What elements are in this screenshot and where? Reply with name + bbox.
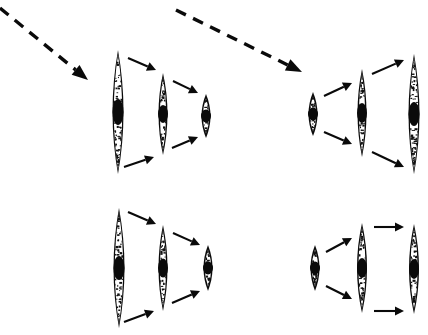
stipple-dot	[118, 77, 119, 78]
stipple-dot	[411, 282, 413, 283]
stipple-dot	[359, 248, 362, 250]
stipple-dot	[118, 309, 120, 311]
stipple-dot	[117, 234, 119, 236]
stipple-dot	[414, 80, 416, 82]
stipple-dot	[117, 126, 119, 128]
stipple-dot	[363, 247, 365, 249]
stipple-dot	[413, 89, 415, 91]
stipple-dot	[118, 88, 120, 90]
stipple-dot	[413, 84, 415, 85]
stipple-dot	[118, 149, 121, 150]
stipple-dot	[117, 285, 118, 287]
stipple-dot	[363, 290, 364, 292]
stipple-dot	[116, 80, 117, 81]
stipple-dot	[165, 257, 167, 258]
stipple-dot	[412, 74, 415, 75]
stipple-dot	[361, 90, 364, 92]
stipple-dot	[413, 255, 415, 256]
stipple-dot	[412, 94, 414, 95]
lens-nucleus	[310, 262, 320, 275]
stipple-dot	[360, 238, 361, 240]
stipple-dot	[361, 123, 363, 124]
lens-nucleus	[357, 258, 367, 278]
stipple-dot	[411, 258, 413, 259]
stipple-dot	[414, 128, 417, 130]
stipple-dot	[115, 138, 117, 140]
stipple-dot	[120, 127, 121, 129]
stipple-dot	[412, 150, 413, 152]
stipple-dot	[162, 298, 164, 299]
stipple-dot	[118, 86, 119, 88]
stipple-dot	[208, 253, 209, 255]
lens-nucleus	[158, 259, 168, 278]
stipple-dot	[119, 290, 120, 291]
stipple-dot	[413, 87, 415, 89]
stipple-dot	[416, 89, 417, 91]
stipple-dot	[164, 100, 166, 102]
stipple-dot	[160, 286, 163, 287]
stipple-dot	[361, 243, 362, 245]
stipple-dot	[410, 98, 412, 99]
stipple-dot	[161, 134, 162, 135]
stipple-dot	[115, 246, 118, 248]
stipple-dot	[362, 237, 364, 238]
lens-nucleus	[114, 256, 125, 280]
stipple-dot	[162, 250, 165, 251]
stipple-dot	[120, 137, 121, 139]
stipple-dot	[160, 253, 163, 255]
stipple-dot	[360, 245, 363, 246]
stipple-dot	[119, 287, 120, 289]
stipple-dot	[360, 93, 362, 94]
stipple-dot	[412, 153, 415, 155]
stipple-dot	[116, 135, 117, 137]
stipple-dot	[360, 242, 362, 243]
stipple-dot	[361, 130, 362, 131]
stipple-dot	[117, 226, 120, 228]
stipple-dot	[312, 123, 313, 124]
stipple-dot	[414, 236, 415, 237]
stipple-dot	[117, 136, 120, 137]
stipple-dot	[118, 313, 120, 315]
lens-nucleus	[308, 108, 318, 121]
stipple-dot	[161, 99, 162, 100]
stipple-dot	[413, 280, 416, 282]
stipple-dot	[415, 139, 417, 140]
stipple-dot	[117, 240, 119, 242]
stipple-dot	[414, 252, 416, 253]
stipple-dot	[414, 283, 416, 284]
stipple-dot	[360, 282, 363, 284]
stipple-dot	[117, 254, 120, 256]
lens-nucleus	[357, 103, 367, 123]
stipple-dot	[118, 75, 120, 76]
stipple-dot	[117, 92, 119, 93]
stipple-dot	[119, 299, 121, 300]
stipple-dot	[413, 242, 415, 244]
stipple-dot	[413, 300, 415, 302]
stipple-dot	[119, 282, 122, 284]
stipple-dot	[118, 220, 120, 222]
stipple-dot	[412, 81, 413, 83]
stipple-dot	[360, 132, 361, 133]
stipple-dot	[414, 293, 415, 294]
lens-nucleus	[158, 105, 168, 123]
stipple-dot	[414, 141, 417, 142]
stipple-dot	[362, 287, 364, 288]
stipple-dot	[312, 106, 315, 107]
stipple-dot	[415, 295, 416, 297]
stipple-dot	[114, 130, 116, 132]
stipple-dot	[116, 288, 118, 290]
stipple-dot	[361, 87, 362, 88]
stipple-dot	[412, 143, 415, 144]
stipple-dot	[413, 160, 415, 161]
stipple-dot	[116, 150, 118, 152]
stipple-dot	[311, 104, 314, 106]
stipple-dot	[204, 107, 207, 108]
stipple-dot	[360, 96, 362, 97]
lens-nucleus	[201, 110, 211, 123]
stipple-dot	[162, 245, 163, 247]
stipple-dot	[417, 91, 418, 93]
stipple-dot	[412, 130, 415, 131]
stipple-dot	[118, 228, 120, 229]
stipple-dot	[315, 278, 316, 279]
stipple-dot	[120, 232, 121, 233]
